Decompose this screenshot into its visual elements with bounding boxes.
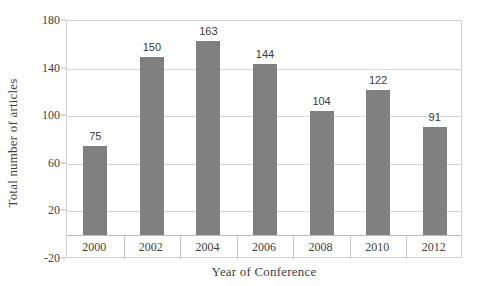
bar-value-label: 163 [199, 25, 217, 37]
bar [83, 146, 107, 235]
x-axis-tick-label: 2004 [195, 240, 219, 255]
bar-value-label: 91 [429, 111, 441, 123]
y-axis-tick-mark [61, 67, 66, 68]
y-axis-tick-mark [61, 162, 66, 163]
y-axis-tick-mark [61, 258, 66, 259]
y-axis-tick-label: 180 [20, 13, 60, 28]
y-axis-tick-label: -20 [20, 251, 60, 266]
x-axis-tick-mark [350, 235, 351, 259]
x-axis-tick-mark [293, 235, 294, 259]
x-axis-tick-mark [124, 235, 125, 259]
bar-value-label: 150 [143, 41, 161, 53]
bar-value-label: 144 [256, 48, 274, 60]
bar [366, 90, 390, 235]
bar-chart-figure: Total number of articles 1801401006020-2… [0, 0, 481, 286]
y-axis-tick-label: 20 [20, 203, 60, 218]
x-axis-tick-label: 2000 [82, 240, 106, 255]
x-axis-tick-mark [237, 235, 238, 259]
x-axis-tick-label: 2012 [422, 240, 446, 255]
x-axis-title: Year of Conference [66, 264, 462, 280]
y-axis-tick-label: 140 [20, 60, 60, 75]
bar [196, 41, 220, 235]
x-axis-tick-label: 2010 [365, 240, 389, 255]
y-axis-tick-mark [61, 210, 66, 211]
bar-value-label: 104 [312, 95, 330, 107]
y-axis-tick-label: 100 [20, 108, 60, 123]
bar [310, 111, 334, 235]
y-axis-tick-mark [61, 115, 66, 116]
y-axis-tick-label: 60 [20, 155, 60, 170]
bar-value-label: 122 [369, 74, 387, 86]
bar-value-label: 75 [89, 130, 101, 142]
bar [423, 127, 447, 235]
plot-area: 7515016314410412291 [66, 20, 462, 258]
y-axis-tick-label-group: 1801401006020-20 [14, 0, 60, 286]
x-axis-tick-mark [180, 235, 181, 259]
x-axis-tick-mark [406, 235, 407, 259]
x-axis-tick-label: 2002 [139, 240, 163, 255]
bar [253, 64, 277, 235]
bar [140, 57, 164, 236]
zero-baseline [67, 235, 461, 236]
y-axis-tick-mark [61, 20, 66, 21]
x-axis-tick-label: 2006 [252, 240, 276, 255]
x-axis-tick-label: 2008 [309, 240, 333, 255]
